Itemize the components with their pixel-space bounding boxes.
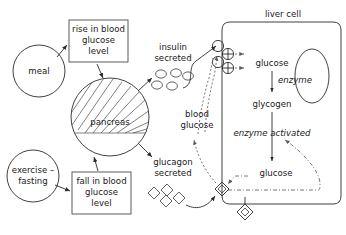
exercise-label-line-1: exercise – [12,165,55,175]
pancreas-node: pancreas [62,78,151,156]
fall-box-line-2: glucose [85,187,118,197]
glucagon-transport-path [186,196,215,208]
enzyme-label: enzyme [278,75,312,85]
meal-node: meal [13,45,65,97]
glucose-to-glycogen-pathway: glucose enzyme glycogen [252,58,312,109]
fall-box-line-3: level [91,198,111,208]
arrow-pancreas-to-insulin [138,78,152,91]
diagram-canvas: meal rise in blood glucose level [0,0,346,235]
liver-cell-label: liver cell [265,9,301,19]
arrow-meal-to-rise [57,45,67,57]
blood-glucose-line-2: glucose [180,120,213,130]
fall-in-blood-glucose-box: fall in blood glucose level [72,172,131,214]
glucose-to-blood-path [194,140,216,183]
exercise-fasting-node: exercise – fasting [7,150,59,202]
exercise-label-line-2: fasting [18,176,47,186]
blood-glucose-node: blood glucose [180,109,213,130]
rise-box-line-2: glucose [82,35,115,45]
arrow-pancreas-to-glucagon [138,143,152,157]
glucagon-receptor-bottom [237,197,253,220]
glucose-top-label: glucose [255,58,288,68]
glucagon-receptor-complex [215,182,253,220]
transporter-lower [222,62,233,73]
arrow-exercise-to-fall [55,185,70,191]
rise-box-line-3: level [88,46,108,56]
fall-box-line-1: fall in blood [76,176,126,186]
pancreas-label: pancreas [90,117,130,127]
glucose-bottom-label: glucose [259,168,292,178]
glycogen-label: glycogen [252,99,291,109]
glucagon-label-line-2: secreted [154,168,191,178]
insulin-molecules [152,69,194,90]
blood-glucose-regulation-diagram: meal rise in blood glucose level [0,0,346,235]
arrow-fall-to-pancreas [94,157,98,171]
rise-box-line-1: rise in blood [72,24,125,34]
insulin-label-line-2: secreted [154,53,191,63]
glucose-exit-path [228,176,248,184]
transporter-upper [222,48,233,59]
glucagon-secreted-node: glucagon secreted [148,157,193,207]
rise-in-blood-glucose-box: rise in blood glucose level [69,20,128,62]
insulin-label-line-1: insulin [159,42,187,52]
glycogen-to-glucose-pathway: enzyme activated glucose [234,112,311,178]
meal-label: meal [28,66,49,76]
glucagon-molecules [148,184,185,207]
insulin-secreted-node: insulin secreted [152,42,194,90]
enzyme-activated-label: enzyme activated [234,128,311,138]
arrow-rise-to-pancreas [97,64,103,78]
blood-glucose-line-1: blood [185,109,209,119]
glucagon-label-line-1: glucagon [153,157,192,167]
glucagon-signal-path [228,140,320,190]
